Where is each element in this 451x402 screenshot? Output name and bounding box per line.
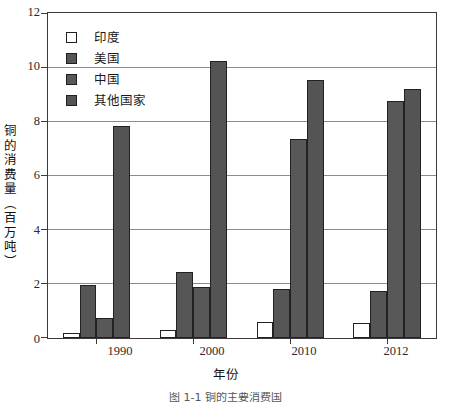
bar-2000-美国 [176,272,193,338]
bar-2000-其他国家 [210,61,227,338]
gridline-2 [48,283,436,284]
x-tick-label-2012: 2012 [366,345,426,358]
bar-1990-其他国家 [113,126,130,338]
bar-1990-美国 [80,285,97,338]
y-tick-12 [41,13,48,14]
gridline-6 [48,175,436,176]
legend: 印度 美国 中国 其他国家 [66,27,198,111]
x-tick-2000 [193,338,194,344]
x-tick-2010 [290,338,291,344]
bar-2012-印度 [353,323,370,338]
y-tick-8 [41,121,48,122]
legend-swatch-other-icon [66,95,77,106]
y-tick-label-6: 6 [12,169,40,182]
y-tick-label-8: 8 [12,115,40,128]
y-axis-title: 铜的消费量︵百万吨︶ [2,124,19,269]
gridline-4 [48,229,436,230]
y-axis-title-char: ︶ [2,255,19,270]
bar-2010-美国 [273,289,290,338]
bar-1990-印度 [63,333,80,338]
legend-item-usa: 美国 [66,48,198,69]
bar-2010-其他国家 [307,80,324,338]
legend-swatch-china-icon [66,74,77,85]
bar-2000-印度 [160,330,177,338]
figure-container: 铜的消费量︵百万吨︶ 12 10 8 6 4 2 0 印度 美国 中国 其他国家 [0,0,451,402]
bar-2012-美国 [370,291,387,338]
y-axis-title-char: 量 [2,182,19,197]
x-tick-1990 [96,338,97,344]
bar-2012-中国 [387,101,404,338]
figure-caption: 图 1-1 铜的主要消费国 [0,392,451,402]
x-tick-label-1990: 1990 [90,345,150,358]
y-tick-0 [41,337,48,338]
legend-item-india: 印度 [66,27,198,48]
legend-item-china: 中国 [66,69,198,90]
y-tick-label-4: 4 [12,224,40,237]
x-tick-label-2000: 2000 [182,345,242,358]
y-axis-title-char: 吨 [2,240,19,255]
y-tick-6 [41,175,48,176]
y-tick-label-2: 2 [12,278,40,291]
bar-2010-中国 [290,139,307,338]
y-tick-label-10: 10 [12,60,40,73]
x-axis-title: 年份 [0,368,451,382]
legend-label-other: 其他国家 [94,94,146,107]
bar-2010-印度 [257,322,274,338]
y-tick-4 [41,229,48,230]
y-tick-10 [41,67,48,68]
y-axis-title-char: ︵ [2,197,19,212]
gridline-8 [48,121,436,122]
x-tick-label-2010: 2010 [274,345,334,358]
legend-label-india: 印度 [94,31,120,44]
y-tick-2 [41,283,48,284]
legend-swatch-usa-icon [66,53,77,64]
legend-item-other: 其他国家 [66,90,198,111]
y-axis-title-char: 消 [2,153,19,168]
legend-label-china: 中国 [94,73,120,86]
plot-area: 印度 美国 中国 其他国家 [47,12,437,339]
bar-1990-中国 [96,318,113,338]
bar-2012-其他国家 [404,89,421,338]
y-tick-label-0: 0 [12,333,40,346]
legend-swatch-india-icon [66,32,77,43]
y-tick-label-12: 12 [12,6,40,19]
legend-label-usa: 美国 [94,52,120,65]
bar-2000-中国 [193,287,210,338]
y-axis-title-char: 的 [2,139,19,154]
